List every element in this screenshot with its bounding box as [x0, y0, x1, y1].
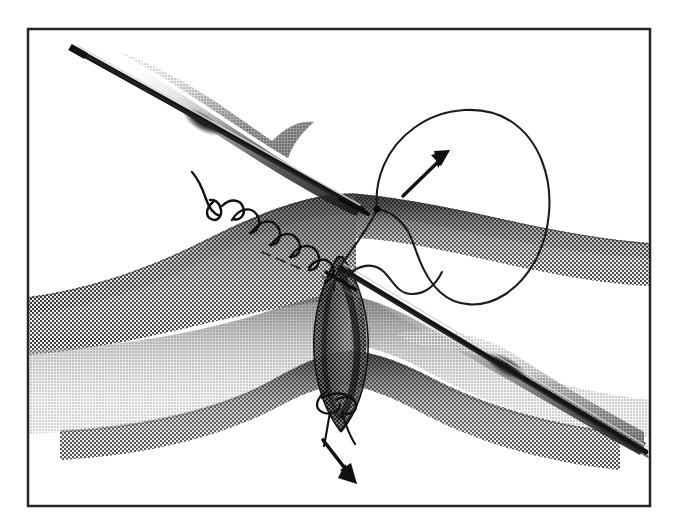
illustration-content [20, 29, 660, 506]
illustration-figure: Anastomosis suturing technique with two … [0, 0, 683, 526]
suture-entry-point [373, 205, 380, 212]
illustration-canvas [0, 0, 683, 526]
